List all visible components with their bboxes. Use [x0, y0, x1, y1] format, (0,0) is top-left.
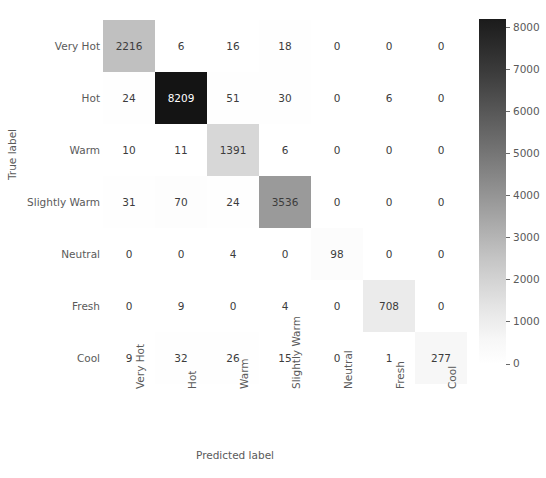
- heatmap-cell-value: 51: [207, 72, 259, 124]
- x-tick-label-6: Cool: [446, 269, 458, 389]
- heatmap-cell-value: 4: [207, 228, 259, 280]
- heatmap-cell: 0: [103, 228, 155, 280]
- heatmap-cell: 0: [363, 124, 415, 176]
- heatmap-cell-value: 1391: [207, 124, 259, 176]
- colorbar-tick-mark: [506, 153, 510, 154]
- heatmap-cell: 11: [155, 124, 207, 176]
- heatmap-cell-value: 0: [155, 228, 207, 280]
- heatmap-cell: 6: [259, 124, 311, 176]
- heatmap-cell: 0: [103, 280, 155, 332]
- y-axis-label: True label: [6, 60, 18, 180]
- heatmap-cell: 1391: [207, 124, 259, 176]
- heatmap-cell: 0: [415, 228, 467, 280]
- heatmap-cell-value: 0: [363, 124, 415, 176]
- colorbar-tick-text: 5000: [513, 148, 540, 159]
- heatmap-cell-value: 9: [103, 332, 155, 384]
- colorbar-tick-text: 8000: [513, 22, 540, 33]
- heatmap-cell-value: 1: [363, 332, 415, 384]
- colorbar-tick-text: 6000: [513, 106, 540, 117]
- heatmap-cell-value: 0: [415, 176, 467, 228]
- heatmap-cell-value: 6: [259, 124, 311, 176]
- heatmap-cell: 9: [103, 332, 155, 384]
- heatmap-cell-value: 0: [103, 280, 155, 332]
- y-tick-label-4: Neutral: [0, 248, 100, 260]
- heatmap-cell-value: 0: [415, 228, 467, 280]
- heatmap-cell-value: 24: [207, 176, 259, 228]
- heatmap-cell-value: 26: [207, 332, 259, 384]
- heatmap-cell-value: 0: [415, 72, 467, 124]
- colorbar-tick-text: 1000: [513, 316, 540, 327]
- heatmap-cell-value: 18: [259, 20, 311, 72]
- heatmap-cell: 9: [155, 280, 207, 332]
- heatmap-cell-value: 2216: [103, 20, 155, 72]
- heatmap-cell: 0: [311, 280, 363, 332]
- heatmap-cell: 0: [311, 176, 363, 228]
- y-tick-label-0: Very Hot: [0, 40, 100, 52]
- colorbar-tick-mark: [506, 27, 510, 28]
- heatmap-cell-value: 0: [311, 332, 363, 384]
- heatmap-cell: 51: [207, 72, 259, 124]
- heatmap-cell-value: 24: [103, 72, 155, 124]
- x-tick-label-0: Very Hot: [134, 269, 146, 389]
- heatmap-cell: 8209: [155, 72, 207, 124]
- heatmap-cell-value: 0: [311, 176, 363, 228]
- heatmap-cell-value: 30: [259, 72, 311, 124]
- heatmap-cell: 0: [415, 280, 467, 332]
- heatmap-cell: 10: [103, 124, 155, 176]
- heatmap-cell: 32: [155, 332, 207, 384]
- heatmap-cell: 0: [363, 228, 415, 280]
- colorbar: 800070006000500040003000200010000: [479, 19, 506, 364]
- heatmap-cell: 16: [207, 20, 259, 72]
- colorbar-tick-text: 3000: [513, 232, 540, 243]
- heatmap-cell: 0: [259, 228, 311, 280]
- heatmap-cell: 0: [155, 228, 207, 280]
- heatmap-cell: 0: [415, 176, 467, 228]
- confusion-matrix-figure: True label Very HotHotWarmSlightly WarmN…: [0, 0, 546, 478]
- heatmap-cell-value: 708: [363, 280, 415, 332]
- colorbar-tick-mark: [506, 111, 510, 112]
- y-tick-label-3: Slightly Warm: [0, 196, 100, 208]
- heatmap-cell-value: 0: [415, 124, 467, 176]
- heatmap-cell-value: 70: [155, 176, 207, 228]
- heatmap-cell: 30: [259, 72, 311, 124]
- y-tick-label-1: Hot: [0, 92, 100, 104]
- heatmap-cell: 0: [415, 72, 467, 124]
- colorbar-tick-text: 0: [513, 358, 520, 369]
- heatmap-cell: 277: [415, 332, 467, 384]
- heatmap-cell: 708: [363, 280, 415, 332]
- heatmap-cell: 18: [259, 20, 311, 72]
- colorbar-tick-text: 4000: [513, 190, 540, 201]
- heatmap-cell-value: 16: [207, 20, 259, 72]
- colorbar-tick-text: 7000: [513, 64, 540, 75]
- heatmap-grid: 2216616180002482095130060101113916000317…: [103, 20, 467, 384]
- colorbar-tick-mark: [506, 321, 510, 322]
- heatmap-cell: 0: [415, 20, 467, 72]
- heatmap-cell: 0: [415, 124, 467, 176]
- heatmap-cell: 3536: [259, 176, 311, 228]
- colorbar-tick-mark: [506, 364, 510, 365]
- colorbar-tick-text: 2000: [513, 274, 540, 285]
- heatmap-cell-value: 0: [311, 72, 363, 124]
- heatmap-cell-value: 11: [155, 124, 207, 176]
- heatmap-cell: 0: [311, 332, 363, 384]
- heatmap-cell: 0: [311, 124, 363, 176]
- colorbar-tick-mark: [506, 195, 510, 196]
- x-tick-label-3: Slightly Warm: [290, 269, 302, 389]
- heatmap-cell: 0: [207, 280, 259, 332]
- heatmap-cell-value: 32: [155, 332, 207, 384]
- colorbar-tick-mark: [506, 279, 510, 280]
- y-tick-label-5: Fresh: [0, 300, 100, 312]
- heatmap-cell: 24: [103, 72, 155, 124]
- heatmap-cell: 98: [311, 228, 363, 280]
- x-tick-label-1: Hot: [186, 269, 198, 389]
- heatmap-cell-value: 6: [363, 72, 415, 124]
- colorbar-tick-mark: [506, 237, 510, 238]
- heatmap-cell: 6: [155, 20, 207, 72]
- heatmap-cell-value: 0: [103, 228, 155, 280]
- colorbar-gradient: [479, 19, 506, 364]
- heatmap-cell-value: 277: [415, 332, 467, 384]
- y-tick-label-6: Cool: [0, 352, 100, 364]
- heatmap-cell-value: 0: [207, 280, 259, 332]
- heatmap-cell-value: 9: [155, 280, 207, 332]
- heatmap-cell-value: 0: [363, 176, 415, 228]
